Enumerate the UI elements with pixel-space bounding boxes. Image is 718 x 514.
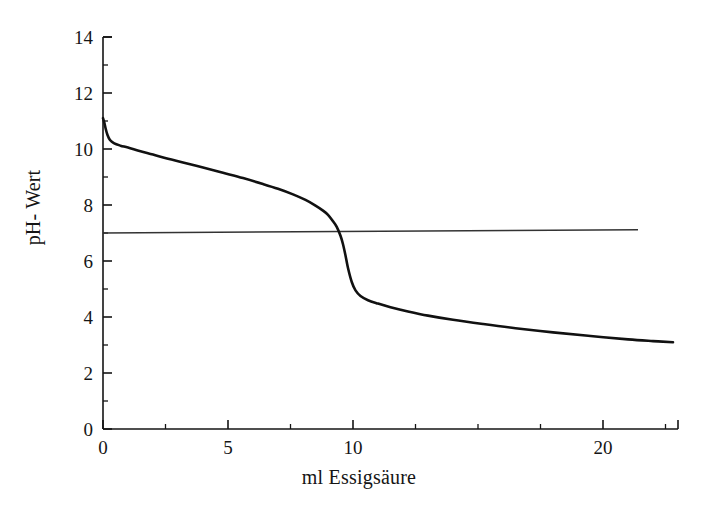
y-axis-title: pH- Wert	[22, 148, 45, 268]
titration-chart-figure: 02468101214 051020 ml Essigsäure pH- Wer…	[0, 0, 718, 514]
neutral-ph7-reference-line	[103, 230, 638, 233]
y-tick-label-12: 12	[74, 84, 93, 103]
y-tick-label-8: 8	[84, 196, 94, 215]
y-tick-label-2: 2	[84, 364, 94, 383]
x-tick-label-5: 5	[223, 438, 233, 457]
x-tick-label-10: 10	[344, 438, 363, 457]
y-tick-label-0: 0	[84, 420, 94, 439]
x-axis-title: ml Essigsäure	[0, 466, 718, 489]
x-tick-label-0: 0	[98, 438, 108, 457]
x-tick-label-20: 20	[594, 438, 613, 457]
y-tick-label-10: 10	[74, 140, 93, 159]
y-tick-label-14: 14	[74, 28, 93, 47]
y-tick-label-6: 6	[84, 252, 94, 271]
y-tick-label-4: 4	[84, 308, 94, 327]
